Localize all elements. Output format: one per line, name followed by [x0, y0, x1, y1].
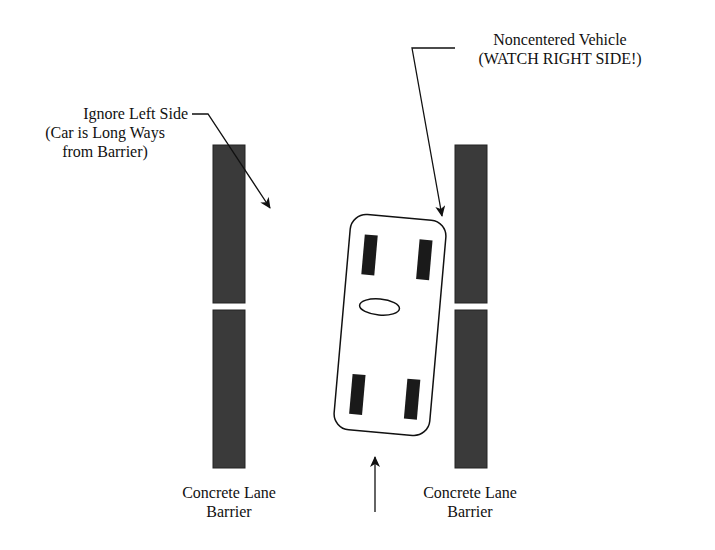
right-concrete-barrier: [455, 145, 487, 468]
left-note-line2: (Car is Long Ways: [20, 123, 190, 142]
left-note-line3: from Barrier): [20, 142, 190, 161]
left-barrier-label-line2: Barrier: [159, 502, 299, 521]
left-barrier-label-line1: Concrete Lane: [159, 483, 299, 502]
right-side-note: Noncentered Vehicle (WATCH RIGHT SIDE!): [460, 30, 660, 68]
right-note-line2: (WATCH RIGHT SIDE!): [460, 49, 660, 68]
right-note-line1: Noncentered Vehicle: [460, 30, 660, 49]
right-barrier-label: Concrete Lane Barrier: [400, 483, 540, 521]
left-concrete-barrier: [213, 145, 245, 468]
left-barrier-label: Concrete Lane Barrier: [159, 483, 299, 521]
lane-barrier-diagram: [0, 0, 715, 550]
right-barrier-label-line2: Barrier: [400, 502, 540, 521]
vehicle: [333, 213, 447, 437]
left-note-line1: Ignore Left Side: [20, 104, 190, 123]
left-side-note: Ignore Left Side (Car is Long Ways from …: [20, 104, 190, 161]
right-callout-arrow: [412, 48, 455, 216]
right-barrier-label-line1: Concrete Lane: [400, 483, 540, 502]
